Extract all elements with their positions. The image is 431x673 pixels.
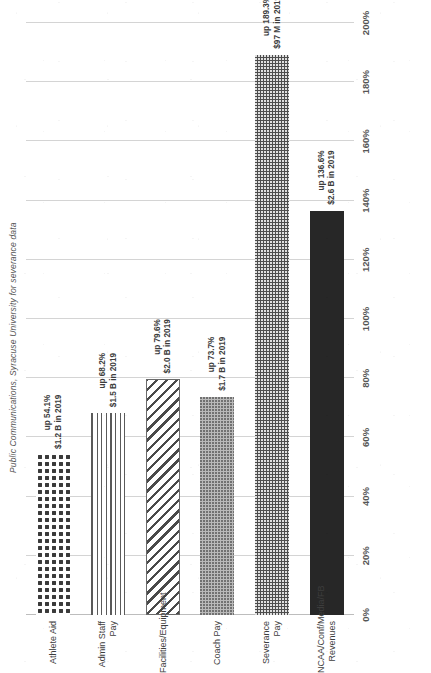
category-label: Athlete Aid: [48, 621, 59, 673]
bar-row: [36, 23, 70, 615]
bar[interactable]: [310, 211, 344, 615]
value-tick-label: 180%: [360, 70, 371, 94]
bar[interactable]: [255, 55, 289, 615]
category-label: Severance Pay: [261, 621, 283, 673]
bar-data-label: up 189.3%$97 M in 2019: [262, 0, 283, 49]
bar-amount-label: $97 M in 2019: [272, 0, 283, 49]
bar-amount-label: $1.7 B in 2019: [217, 337, 228, 391]
bar-row: [310, 23, 344, 615]
plot-area: up 136.6%$2.6 B in 2019up 189.3%$97 M in…: [26, 23, 354, 615]
bar-row: [255, 23, 289, 615]
value-tick-label: 40%: [360, 487, 371, 506]
category-label-line: Athlete Aid: [48, 621, 59, 673]
value-tick-label: 60%: [360, 428, 371, 447]
category-label-line: Severance Pay: [261, 621, 283, 673]
bar-data-label: up 68.2%$1.5 B in 2019: [98, 353, 119, 407]
chart-title: Public Communications, Syracuse Universi…: [8, 222, 18, 473]
value-tick-label: 0%: [360, 608, 371, 622]
category-label-line: Coach Pay: [212, 621, 223, 673]
bar-percent-label: up 79.6%: [152, 319, 163, 373]
bar-percent-label: up 136.6%: [316, 151, 327, 205]
bar-data-label: up 136.6%$2.6 B in 2019: [316, 151, 337, 205]
category-label: Admin Staff Pay: [97, 621, 119, 673]
chart-canvas: Public Communications, Syracuse Universi…: [0, 0, 431, 673]
bar-data-label: up 73.7%$1.7 B in 2019: [207, 337, 228, 391]
value-tick-label: 200%: [360, 11, 371, 35]
category-label: Facilities/Equipment: [157, 621, 168, 673]
category-axis-labels: NCAA/Conf/Media/FBRevenuesSeverance PayC…: [26, 617, 354, 673]
bar-percent-label: up 68.2%: [98, 353, 109, 407]
bar-amount-label: $1.2 B in 2019: [53, 395, 64, 449]
category-label-line: Facilities/Equipment: [157, 621, 168, 673]
value-axis-ticks: 0%20%40%60%80%100%120%140%160%180%200%: [356, 23, 396, 615]
bar-data-label: up 79.6%$2.0 B in 2019: [152, 319, 173, 373]
bar[interactable]: [146, 379, 180, 615]
bar[interactable]: [36, 455, 70, 615]
bar-percent-label: up 73.7%: [207, 337, 218, 391]
category-label: Coach Pay: [212, 621, 223, 673]
bar-row: [91, 23, 125, 615]
bar-row: [200, 23, 234, 615]
rotated-page-stage: Public Communications, Syracuse Universi…: [0, 0, 431, 673]
category-label: NCAA/Conf/Media/FBRevenues: [316, 621, 338, 673]
category-label-line: Admin Staff Pay: [97, 621, 119, 673]
value-tick-label: 160%: [360, 129, 371, 153]
bar[interactable]: [91, 413, 125, 615]
bar-amount-label: $2.6 B in 2019: [327, 151, 338, 205]
value-tick-label: 100%: [360, 307, 371, 331]
category-label-line: Revenues: [327, 621, 338, 673]
value-tick-label: 140%: [360, 188, 371, 212]
bar-data-label: up 54.1%$1.2 B in 2019: [43, 395, 64, 449]
bar-series: up 136.6%$2.6 B in 2019up 189.3%$97 M in…: [26, 23, 354, 615]
bar-percent-label: up 189.3%: [262, 0, 273, 49]
category-label-line: NCAA/Conf/Media/FB: [316, 621, 327, 673]
value-tick-label: 120%: [360, 248, 371, 272]
bar[interactable]: [200, 397, 234, 615]
bar-percent-label: up 54.1%: [43, 395, 54, 449]
bar-amount-label: $1.5 B in 2019: [108, 353, 119, 407]
bar-amount-label: $2.0 B in 2019: [163, 319, 174, 373]
value-tick-label: 20%: [360, 546, 371, 565]
value-tick-label: 80%: [360, 369, 371, 388]
